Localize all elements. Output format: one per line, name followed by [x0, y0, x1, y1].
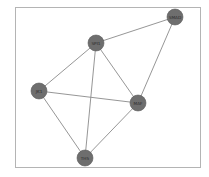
network-graph: SPI1SMADJK1MAFTH5 — [0, 0, 209, 177]
node-label: JK1 — [35, 89, 43, 94]
edge-spi1-smad — [96, 17, 175, 43]
edge-spi1-jk1 — [39, 43, 96, 91]
edge-smad-maf — [138, 17, 175, 103]
node-maf[interactable]: MAF — [130, 95, 146, 111]
node-label: MAF — [134, 101, 143, 106]
edge-jk1-maf — [39, 91, 138, 103]
edge-maf-th5 — [85, 103, 138, 158]
node-label: TH5 — [80, 156, 90, 161]
nodes-layer: SPI1SMADJK1MAFTH5 — [31, 9, 183, 166]
node-jk1[interactable]: JK1 — [31, 83, 47, 99]
node-th5[interactable]: TH5 — [77, 150, 93, 166]
node-smad[interactable]: SMAD — [167, 9, 183, 25]
edge-jk1-th5 — [39, 91, 85, 158]
node-label: SPI1 — [91, 41, 100, 46]
edges-layer — [39, 17, 175, 158]
node-label: SMAD — [169, 15, 181, 20]
edge-spi1-th5 — [85, 43, 96, 158]
node-spi1[interactable]: SPI1 — [88, 35, 104, 51]
edge-spi1-maf — [96, 43, 138, 103]
